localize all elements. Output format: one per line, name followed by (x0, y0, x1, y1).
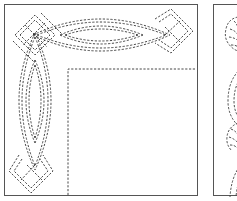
feather-plume-panel (213, 4, 237, 196)
left-knot-border (9, 33, 53, 193)
inner-corner-stitch-line (68, 69, 195, 195)
celtic-knot-corner-panel (4, 4, 198, 196)
top-knot-border (33, 9, 193, 53)
feather-plume-pattern (214, 5, 237, 197)
celtic-knot-pattern (5, 5, 199, 197)
corner-knot (13, 13, 63, 63)
